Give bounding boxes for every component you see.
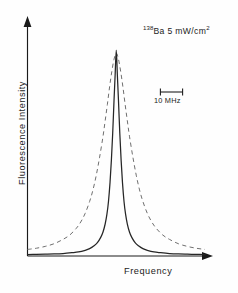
axes-group bbox=[24, 16, 213, 260]
element-symbol: Ba bbox=[153, 26, 164, 36]
figure-container: 138Ba 5 mW/cm2 10 MHz Frequency Fluoresc… bbox=[0, 0, 238, 293]
sample-annotation: 138Ba 5 mW/cm2 bbox=[143, 24, 210, 36]
scalebar-group bbox=[160, 89, 183, 96]
plot-area bbox=[0, 0, 238, 293]
laser-intensity-value: 5 mW/cm bbox=[167, 26, 206, 36]
y-axis-arrow-icon bbox=[24, 16, 32, 27]
y-axis-label: Fluorescence Intensity bbox=[17, 67, 27, 199]
isotope-mass-superscript: 138 bbox=[143, 24, 153, 31]
intensity-unit-exponent: 2 bbox=[206, 24, 210, 31]
scalebar-label: 10 MHz bbox=[154, 96, 181, 105]
series-observed-spectrum bbox=[28, 50, 206, 255]
curves-group bbox=[28, 50, 206, 255]
x-axis-label: Frequency bbox=[124, 266, 172, 276]
x-axis-arrow-icon bbox=[202, 252, 213, 260]
series-calculated-profile bbox=[28, 53, 206, 249]
